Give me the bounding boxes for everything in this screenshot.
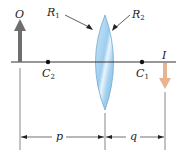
center-c1-dot — [140, 60, 144, 64]
label-c2: C2 — [42, 67, 55, 81]
label-object: O — [15, 8, 24, 21]
r2-pointer — [112, 15, 130, 31]
r1-pointer — [65, 15, 93, 30]
lens-diagram: R1 R2 O I C2 C1 p q — [0, 0, 188, 157]
label-r2: R2 — [131, 8, 145, 22]
label-r1: R1 — [46, 6, 60, 20]
label-image: I — [161, 49, 167, 62]
center-c2-dot — [46, 60, 50, 64]
label-q: q — [130, 130, 137, 143]
label-p: p — [56, 130, 63, 143]
label-c1: C1 — [136, 67, 149, 81]
image-arrow — [159, 63, 171, 89]
object-arrow — [14, 19, 26, 62]
